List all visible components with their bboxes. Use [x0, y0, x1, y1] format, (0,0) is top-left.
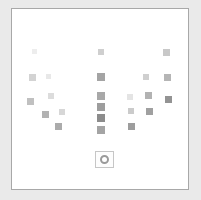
- chart-panel: [11, 8, 189, 190]
- scatter-cell[interactable]: [165, 96, 172, 103]
- scatter-cell[interactable]: [163, 49, 170, 56]
- scatter-cell[interactable]: [97, 126, 105, 134]
- scatter-cell[interactable]: [97, 103, 105, 111]
- scatter-cell[interactable]: [128, 123, 135, 130]
- scatter-cell[interactable]: [97, 92, 105, 100]
- scatter-cell[interactable]: [46, 74, 51, 79]
- scatter-cell[interactable]: [145, 92, 152, 99]
- point-marker-button[interactable]: [95, 151, 114, 168]
- scatter-cell[interactable]: [128, 108, 134, 114]
- scatter-cell[interactable]: [32, 49, 37, 54]
- scatter-cell[interactable]: [48, 93, 54, 99]
- scatter-cell[interactable]: [27, 98, 34, 105]
- scatter-cell[interactable]: [59, 109, 65, 115]
- scatter-cell[interactable]: [146, 108, 153, 115]
- scatter-cell[interactable]: [42, 111, 49, 118]
- scatter-cell[interactable]: [164, 74, 171, 81]
- scatter-cell[interactable]: [97, 114, 105, 122]
- scatter-cell[interactable]: [97, 73, 105, 81]
- circle-outline-icon: [100, 155, 109, 164]
- scatter-cell[interactable]: [98, 49, 104, 55]
- scatter-cell[interactable]: [55, 123, 62, 130]
- scatter-cell[interactable]: [143, 74, 149, 80]
- scatter-cell[interactable]: [29, 74, 36, 81]
- scatter-cell[interactable]: [127, 94, 133, 100]
- screenshot-root: [0, 0, 201, 200]
